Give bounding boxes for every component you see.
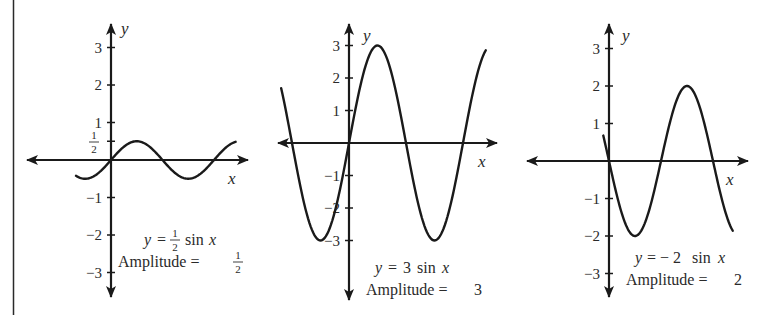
y-axis-label: y — [620, 26, 630, 45]
equation-caption: y = − 2 sin x — [633, 249, 725, 267]
y-axis-label: y — [119, 19, 129, 38]
y-tick-label: 3 — [333, 38, 341, 54]
y-tick-label: −1 — [324, 168, 340, 184]
svg-text:2: 2 — [172, 241, 178, 253]
y-tick-label: 2 — [593, 78, 601, 94]
svg-text:=: = — [157, 231, 166, 248]
svg-text:− 2: − 2 — [660, 249, 681, 266]
svg-text:3: 3 — [403, 259, 411, 276]
graph-neg2-sin: 321−1−2−3 y x y = − 2 sin x Amplitude = … — [527, 24, 748, 297]
y-tick-label: 1 — [593, 116, 601, 132]
graph-3-sin: 321−1−2−3 y x y = 3 sin x Amplitude = 3 — [278, 24, 497, 300]
svg-text:2: 2 — [235, 263, 241, 275]
equation-caption: y = 3 sin x — [373, 259, 449, 277]
svg-text:y: y — [633, 249, 643, 267]
y-tick-label: −1 — [86, 190, 102, 206]
svg-text:2: 2 — [734, 271, 742, 288]
svg-text:=: = — [388, 259, 397, 276]
y-tick-label: 3 — [95, 40, 103, 56]
y-tick-label: 1 — [333, 103, 341, 119]
x-axis-label: x — [227, 169, 236, 188]
y-tick-label: −2 — [86, 227, 102, 243]
amplitude-caption: Amplitude = 3 — [366, 281, 482, 299]
x-axis-label: x — [725, 170, 734, 189]
svg-text:y: y — [142, 231, 152, 249]
half-tick-label: 1 2 — [89, 129, 99, 155]
svg-text:3: 3 — [474, 281, 482, 298]
svg-text:x: x — [717, 249, 725, 266]
y-tick-label: 3 — [593, 41, 601, 57]
amplitude-caption: Amplitude = 2 — [626, 271, 742, 289]
y-tick-label: −3 — [584, 266, 600, 282]
equation-caption: y = 1 2 sin x — [142, 227, 216, 253]
svg-text:sin: sin — [185, 231, 204, 248]
y-tick-label: 2 — [333, 70, 341, 86]
y-tick-label: −1 — [584, 191, 600, 207]
x-axis-label: x — [477, 152, 486, 171]
svg-text:x: x — [441, 259, 449, 276]
svg-text:sin: sin — [692, 249, 711, 266]
svg-text:2: 2 — [91, 143, 97, 155]
svg-text:Amplitude =: Amplitude = — [366, 281, 447, 299]
y-axis-label: y — [361, 26, 371, 45]
svg-text:x: x — [208, 231, 216, 248]
graph-half-sin: 321−1−2−3 y x 1 2 y = 1 2 sin x Amplitud… — [27, 19, 248, 297]
figure-canvas: 321−1−2−3 y x 1 2 y = 1 2 sin x Amplitud… — [0, 0, 775, 315]
svg-text:=: = — [647, 249, 656, 266]
svg-text:1: 1 — [91, 129, 97, 141]
svg-text:1: 1 — [172, 227, 178, 239]
svg-text:Amplitude =: Amplitude = — [118, 253, 199, 271]
svg-text:sin: sin — [417, 259, 436, 276]
svg-text:Amplitude =: Amplitude = — [626, 271, 707, 289]
y-tick-label: −2 — [584, 228, 600, 244]
y-tick-label: 2 — [95, 77, 103, 93]
svg-text:1: 1 — [235, 249, 241, 261]
svg-text:y: y — [373, 259, 383, 277]
figure-sine-amplitude-comparison: 321−1−2−3 y x 1 2 y = 1 2 sin x Amplitud… — [0, 0, 775, 315]
y-tick-label: −3 — [86, 265, 102, 281]
amplitude-caption: Amplitude = 1 2 — [118, 249, 243, 275]
